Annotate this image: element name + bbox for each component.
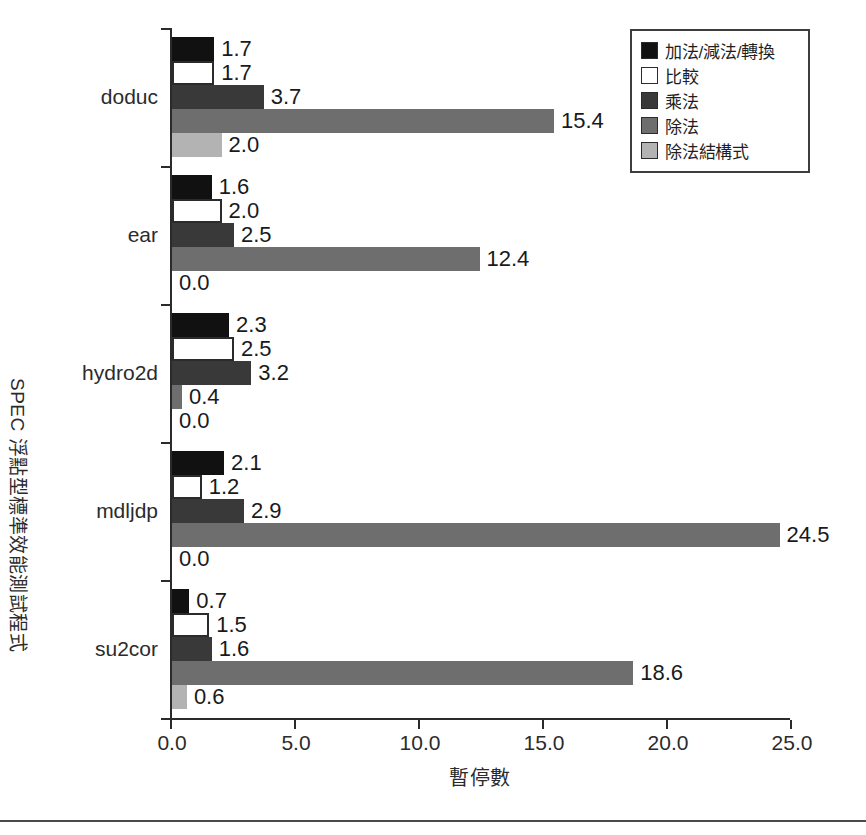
bar[interactable] bbox=[172, 61, 214, 85]
y-axis-tick bbox=[161, 718, 170, 720]
bar-row[interactable]: 18.6 bbox=[170, 661, 790, 685]
bar-value-label: 2.1 bbox=[231, 450, 262, 476]
legend-item[interactable]: 乘法 bbox=[641, 88, 799, 113]
bar[interactable] bbox=[172, 313, 229, 337]
bar-group: su2cor0.71.51.618.60.6 bbox=[170, 580, 790, 718]
legend-item[interactable]: 比較 bbox=[641, 63, 799, 88]
bar-row[interactable]: 0.7 bbox=[170, 589, 790, 613]
legend-swatch-icon bbox=[641, 67, 658, 84]
chart-figure: SPEC 浮點型標準效能測試程式 0.05.010.015.020.025.0 … bbox=[0, 0, 866, 835]
legend-swatch-icon bbox=[641, 142, 658, 159]
legend-item[interactable]: 加法/減法/轉換 bbox=[641, 38, 799, 63]
bar[interactable] bbox=[172, 37, 214, 61]
bar-row[interactable]: 2.9 bbox=[170, 499, 790, 523]
bar[interactable] bbox=[172, 661, 633, 685]
bar-row[interactable]: 0.0 bbox=[170, 547, 790, 571]
bar-row[interactable]: 1.2 bbox=[170, 475, 790, 499]
bar[interactable] bbox=[172, 109, 554, 133]
bar-value-label: 2.5 bbox=[241, 336, 272, 362]
legend-item-label: 乘法 bbox=[665, 88, 699, 113]
bar-value-label: 2.3 bbox=[236, 312, 267, 338]
y-axis-tick bbox=[161, 28, 170, 30]
x-axis-tick bbox=[542, 720, 544, 729]
bar-row[interactable]: 1.6 bbox=[170, 175, 790, 199]
bar[interactable] bbox=[172, 385, 182, 409]
bar-row[interactable]: 24.5 bbox=[170, 523, 790, 547]
bar[interactable] bbox=[172, 637, 212, 661]
legend-swatch-icon bbox=[641, 92, 658, 109]
page-divider bbox=[0, 820, 866, 822]
bar[interactable] bbox=[172, 589, 189, 613]
bar[interactable] bbox=[172, 133, 222, 157]
bar-value-label: 1.7 bbox=[221, 60, 252, 86]
bar-row[interactable]: 3.2 bbox=[170, 361, 790, 385]
bar[interactable] bbox=[172, 199, 222, 223]
y-axis-tick bbox=[161, 442, 170, 444]
bar[interactable] bbox=[172, 451, 224, 475]
bar[interactable] bbox=[172, 613, 209, 637]
x-axis-tick bbox=[790, 720, 792, 729]
y-axis-title: SPEC 浮點型標準效能測試程式 bbox=[0, 195, 40, 835]
bar-group: ear1.62.02.512.40.0 bbox=[170, 166, 790, 304]
x-axis-tick bbox=[418, 720, 420, 729]
bar-row[interactable]: 12.4 bbox=[170, 247, 790, 271]
bar[interactable] bbox=[172, 523, 780, 547]
legend-swatch-icon bbox=[641, 42, 658, 59]
bar-value-label: 15.4 bbox=[561, 108, 604, 134]
bar-row[interactable]: 0.4 bbox=[170, 385, 790, 409]
bar[interactable] bbox=[172, 223, 234, 247]
bar-value-label: 24.5 bbox=[787, 522, 830, 548]
bar-row[interactable]: 1.5 bbox=[170, 613, 790, 637]
bar-row[interactable]: 1.6 bbox=[170, 637, 790, 661]
y-axis-tick bbox=[161, 166, 170, 168]
y-axis-category-label: mdljdp bbox=[96, 499, 158, 523]
x-axis-tick-label: 10.0 bbox=[380, 731, 460, 755]
bar[interactable] bbox=[172, 499, 244, 523]
x-axis-tick bbox=[666, 720, 668, 729]
x-axis-tick-label: 5.0 bbox=[256, 731, 336, 755]
bar-value-label: 1.7 bbox=[221, 36, 252, 62]
bar-value-label: 2.0 bbox=[229, 198, 260, 224]
bar-value-label: 1.2 bbox=[209, 474, 240, 500]
bar-value-label: 1.6 bbox=[219, 636, 250, 662]
bar-group: hydro2d2.32.53.20.40.0 bbox=[170, 304, 790, 442]
bar-value-label: 2.5 bbox=[241, 222, 272, 248]
legend-item[interactable]: 除法 bbox=[641, 113, 799, 138]
x-axis-tick bbox=[170, 720, 172, 729]
legend-item-label: 除法結構式 bbox=[665, 138, 749, 163]
legend-item[interactable]: 除法結構式 bbox=[641, 138, 799, 163]
bar-value-label: 2.9 bbox=[251, 498, 282, 524]
bar[interactable] bbox=[172, 247, 480, 271]
x-axis-tick-label: 15.0 bbox=[504, 731, 584, 755]
bar[interactable] bbox=[172, 175, 212, 199]
y-axis-category-label: ear bbox=[128, 223, 158, 247]
bar-value-label: 1.6 bbox=[219, 174, 250, 200]
bar[interactable] bbox=[172, 85, 264, 109]
bar-value-label: 0.0 bbox=[179, 408, 210, 434]
bar-row[interactable]: 0.6 bbox=[170, 685, 790, 709]
bar-row[interactable]: 0.0 bbox=[170, 409, 790, 433]
bar-value-label: 0.6 bbox=[194, 684, 225, 710]
bar-row[interactable]: 2.1 bbox=[170, 451, 790, 475]
bar-value-label: 0.0 bbox=[179, 546, 210, 572]
y-axis-category-label: su2cor bbox=[95, 637, 158, 661]
bar[interactable] bbox=[172, 337, 234, 361]
bar[interactable] bbox=[172, 361, 251, 385]
y-axis-tick bbox=[161, 304, 170, 306]
bar-row[interactable]: 2.3 bbox=[170, 313, 790, 337]
bar[interactable] bbox=[172, 685, 187, 709]
bar-row[interactable]: 2.5 bbox=[170, 223, 790, 247]
legend-item-label: 除法 bbox=[665, 113, 699, 138]
bar-row[interactable]: 2.0 bbox=[170, 199, 790, 223]
bar-value-label: 12.4 bbox=[487, 246, 530, 272]
bar-row[interactable]: 0.0 bbox=[170, 271, 790, 295]
bar-group: mdljdp2.11.22.924.50.0 bbox=[170, 442, 790, 580]
y-axis-category-label: hydro2d bbox=[82, 361, 158, 385]
x-axis-tick-label: 25.0 bbox=[752, 731, 832, 755]
bar-value-label: 0.7 bbox=[196, 588, 227, 614]
bar[interactable] bbox=[172, 475, 202, 499]
x-axis-tick-label: 0.0 bbox=[132, 731, 212, 755]
bar-row[interactable]: 2.5 bbox=[170, 337, 790, 361]
bar-value-label: 1.5 bbox=[216, 612, 247, 638]
bar-value-label: 0.4 bbox=[189, 384, 220, 410]
